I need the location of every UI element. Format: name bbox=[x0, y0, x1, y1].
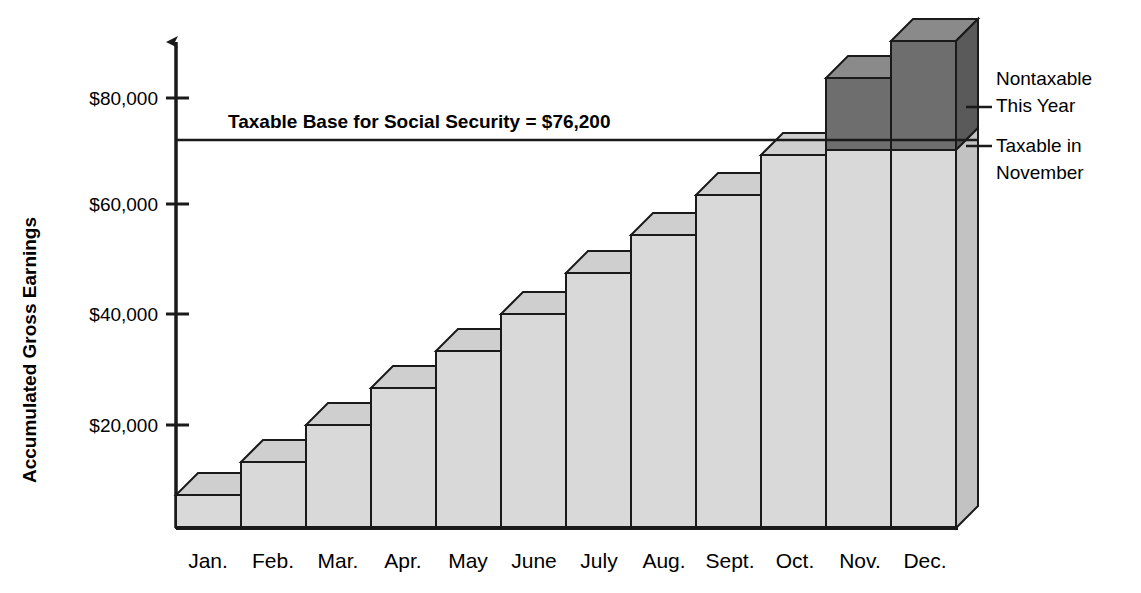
bar-dec[interactable] bbox=[891, 19, 978, 528]
bar-june-front bbox=[501, 314, 566, 528]
x-label-mar: Mar. bbox=[318, 549, 359, 572]
annotation-taxable-november-line2: November bbox=[996, 162, 1084, 183]
bars-group bbox=[176, 19, 978, 528]
x-label-feb: Feb. bbox=[252, 549, 294, 572]
annotation-nontaxable-line1: Nontaxable bbox=[996, 68, 1092, 89]
x-label-sept: Sept. bbox=[705, 549, 754, 572]
bar-jan-front bbox=[176, 495, 241, 528]
accumulated-gross-earnings-chart: Accumulated Gross Earnings $80,000 $60,0… bbox=[0, 0, 1141, 593]
annotation-nontaxable-line2: This Year bbox=[996, 95, 1076, 116]
bar-dec-front-taxable bbox=[891, 150, 956, 528]
bar-mar-front bbox=[306, 425, 371, 528]
y-tick-label-40000: $40,000 bbox=[89, 304, 158, 325]
bar-nov-front-taxable bbox=[826, 150, 891, 528]
bar-dec-side-light bbox=[956, 128, 978, 528]
x-label-oct: Oct. bbox=[776, 549, 815, 572]
x-label-apr: Apr. bbox=[384, 549, 421, 572]
bar-apr-front bbox=[371, 388, 436, 528]
bar-aug-front bbox=[631, 235, 696, 528]
x-label-june: June bbox=[511, 549, 557, 572]
bar-may-front bbox=[436, 351, 501, 528]
bar-dec-front-nontaxable bbox=[891, 41, 956, 150]
bar-feb-front bbox=[241, 462, 306, 528]
y-tick-label-80000: $80,000 bbox=[89, 88, 158, 109]
x-label-may: May bbox=[448, 549, 488, 572]
x-label-aug: Aug. bbox=[642, 549, 685, 572]
y-tick-label-60000: $60,000 bbox=[89, 194, 158, 215]
chart-svg: Accumulated Gross Earnings $80,000 $60,0… bbox=[0, 0, 1141, 593]
x-label-jan: Jan. bbox=[188, 549, 228, 572]
x-label-nov: Nov. bbox=[839, 549, 881, 572]
x-axis-labels: Jan. Feb. Mar. Apr. May June July Aug. S… bbox=[188, 549, 946, 572]
bar-oct-front bbox=[761, 155, 826, 528]
x-label-dec: Dec. bbox=[903, 549, 946, 572]
annotation-taxable-november-line1: Taxable in bbox=[996, 135, 1082, 156]
taxable-base-label: Taxable Base for Social Security = $76,2… bbox=[228, 111, 611, 132]
x-label-july: July bbox=[580, 549, 618, 572]
y-tick-label-20000: $20,000 bbox=[89, 415, 158, 436]
y-axis-title: Accumulated Gross Earnings bbox=[19, 217, 40, 483]
bar-july-front bbox=[566, 273, 631, 528]
bar-sept-front bbox=[696, 195, 761, 528]
